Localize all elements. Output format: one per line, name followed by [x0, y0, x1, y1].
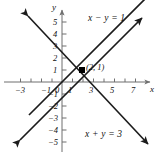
- x-tick-label-7: 7: [131, 86, 135, 95]
- x-axis: [4, 79, 150, 83]
- y-tick-label-3: 3: [53, 42, 57, 51]
- equation-label-x-minus-y: x − y = 1: [88, 14, 125, 24]
- y-tick-label-neg1: −1: [48, 90, 58, 99]
- coordinate-plane-svg: [0, 0, 161, 157]
- y-tick-label-neg4: −4: [48, 126, 58, 135]
- y-axis-label: y: [52, 3, 56, 12]
- line-x-plus-y-equals-3-main: [28, 16, 148, 144]
- graph-figure: −3 −1 0 1 3 5 7 5 4 3 2 1 −1 −2 −3 −4 −5…: [0, 0, 161, 157]
- intersection-point-marker: [79, 67, 85, 73]
- x-tick-label-5: 5: [110, 86, 114, 95]
- y-tick-label-neg5: −5: [48, 138, 58, 147]
- y-tick-label-2: 2: [53, 54, 57, 63]
- x-tick-label-neg3: −3: [15, 86, 25, 95]
- y-tick-label-neg3: −3: [48, 114, 58, 123]
- equation-label-x-plus-y: x + y = 3: [85, 130, 122, 140]
- y-tick-label-4: 4: [53, 30, 57, 39]
- line-x-minus-y-equals-1: [20, 18, 142, 140]
- intersection-point-label: (2, 1): [86, 63, 104, 72]
- x-axis-label: x: [150, 85, 154, 94]
- y-tick-label-5: 5: [53, 18, 57, 27]
- x-tick-label-1: 1: [68, 86, 72, 95]
- y-tick-label-neg2: −2: [48, 102, 58, 111]
- y-tick-label-1: 1: [53, 66, 57, 75]
- x-tick-label-3: 3: [89, 86, 93, 95]
